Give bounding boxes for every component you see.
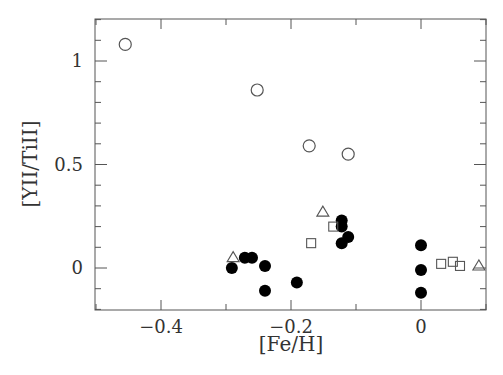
open-triangle-marker bbox=[227, 252, 239, 262]
filled-circle-marker bbox=[246, 252, 258, 264]
open-circle-marker bbox=[119, 38, 131, 50]
filled-circle-marker bbox=[259, 260, 271, 272]
filled-circle-marker bbox=[336, 237, 348, 249]
open-square-marker bbox=[307, 239, 316, 248]
open-circle-marker bbox=[342, 148, 354, 160]
scatter-chart: −0.4−0.20 00.51 [Fe/H] [YII/TiII] bbox=[0, 0, 503, 375]
filled-circle-marker bbox=[415, 239, 427, 251]
filled-circle-marker bbox=[226, 262, 238, 274]
open-circle-marker bbox=[251, 84, 263, 96]
plot-frame bbox=[95, 19, 486, 310]
filled-circle-marker bbox=[259, 285, 271, 297]
y-tick-label: 0.5 bbox=[54, 154, 83, 175]
open-square-marker bbox=[437, 259, 446, 268]
y-tick-labels: 00.51 bbox=[54, 50, 83, 278]
x-axis-label: [Fe/H] bbox=[259, 332, 323, 356]
y-tick-label: 1 bbox=[72, 50, 83, 71]
filled-circle-marker bbox=[291, 276, 303, 288]
filled-circle-marker bbox=[415, 287, 427, 299]
open-circle-marker bbox=[303, 140, 315, 152]
y-tick-label: 0 bbox=[72, 257, 83, 278]
filled-circle-marker bbox=[415, 264, 427, 276]
x-tick-label: 0 bbox=[415, 316, 426, 337]
axis-ticks bbox=[95, 19, 486, 310]
y-axis-label: [YII/TiII] bbox=[18, 121, 42, 208]
x-tick-label: −0.4 bbox=[139, 316, 183, 337]
open-triangle-marker bbox=[317, 206, 329, 216]
data-points bbox=[119, 38, 485, 298]
